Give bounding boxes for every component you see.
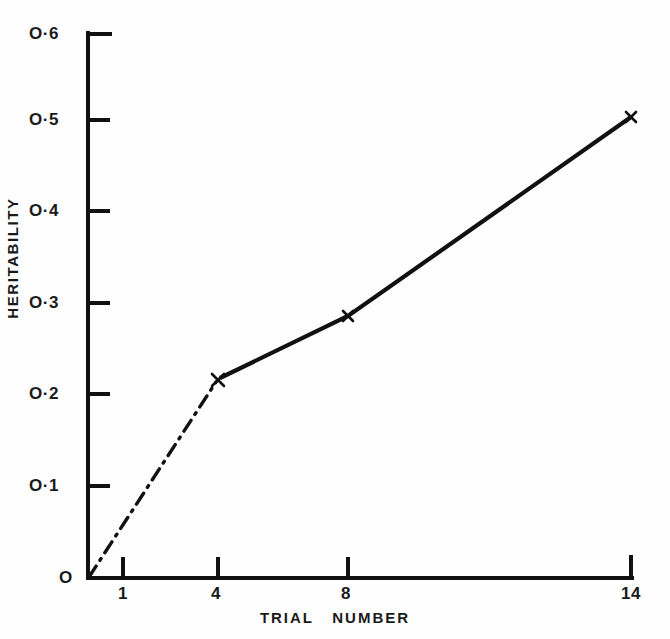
x-tick-label-4: 4 (211, 584, 221, 604)
x-tick-label-8: 8 (341, 584, 351, 604)
x-tick-label-1: 1 (118, 584, 128, 604)
y-tick-label-0-2: O·2 (29, 384, 59, 404)
y-tick-label-0: O (59, 568, 73, 588)
y-tick-label-0-4: O·4 (29, 201, 59, 221)
heritability-line-chart (0, 0, 670, 639)
data-line-segment-solid (220, 117, 631, 378)
y-axis-title: HERITABILITY (4, 178, 21, 338)
y-tick-label-0-5: O·5 (29, 110, 59, 130)
y-tick-label-0-3: O·3 (29, 293, 59, 313)
chart-page: O·6 O·5 O·4 O·3 O·2 O·1 O 1 4 8 14 HERIT… (0, 0, 670, 639)
data-line-segment-dashdot (89, 382, 216, 577)
data-point-marker-trial-4 (212, 374, 224, 386)
y-tick-label-0-1: O·1 (29, 476, 59, 496)
y-tick-label-0-6: O·6 (29, 24, 59, 44)
x-axis-title: TRIAL NUMBER (0, 609, 670, 626)
y-axis-ticks (88, 120, 110, 486)
x-axis-ticks (123, 557, 348, 578)
x-tick-label-14: 14 (621, 584, 641, 604)
data-point-markers (212, 112, 636, 386)
